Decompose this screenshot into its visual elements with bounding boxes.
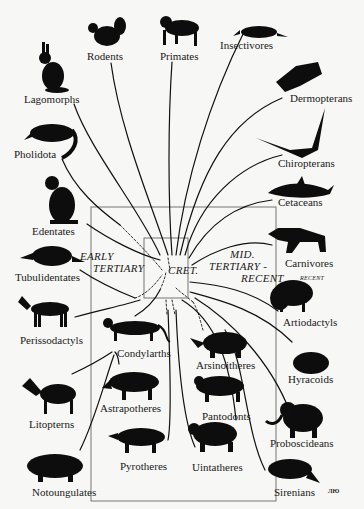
squirrel-silhouette-icon	[88, 17, 126, 46]
label-tubulidentates: Tubulidentates	[15, 271, 80, 283]
branch-pyrotheres	[168, 310, 170, 440]
label-perissodactyls: Perissodactyls	[20, 334, 83, 346]
branch-dermopterans	[180, 98, 282, 255]
branch-center-dashed	[176, 288, 193, 302]
label-condylarths: Condylarths	[117, 347, 171, 359]
era-mid-line1: MID.	[230, 248, 255, 260]
branch-insectivores	[176, 32, 244, 255]
silhouettes	[18, 16, 334, 483]
label-notoungulates: Notoungulates	[32, 486, 96, 498]
hyrax-silhouette-icon	[293, 352, 329, 374]
astrapothere-silhouette-icon	[102, 372, 159, 400]
bat-silhouette-icon	[256, 108, 325, 158]
label-rodents: Rodents	[87, 50, 123, 62]
diagram-canvas	[0, 0, 364, 509]
label-litopterns: Litopterns	[29, 418, 74, 430]
uintathere-silhouette-icon	[188, 422, 237, 452]
label-chiropterans: Chiropterans	[278, 157, 335, 169]
label-lagomorphs: Lagomorphs	[24, 93, 80, 105]
label-artiodactyls: Artiodactyls	[283, 316, 337, 328]
horse-silhouette-icon	[18, 296, 69, 327]
era-early-line1: EARLY	[80, 250, 114, 262]
bison-silhouette-icon	[270, 280, 313, 312]
branch-uintatheres-dashed	[172, 300, 175, 315]
branch-chiropterans	[185, 155, 282, 255]
monkey-silhouette-icon	[160, 16, 199, 46]
label-hyracoids: Hyracoids	[288, 373, 333, 385]
condylarth-silhouette-icon	[103, 318, 170, 342]
branch-primates	[169, 62, 172, 255]
label-insectivores: Insectivores	[220, 39, 273, 51]
label-proboscideans: Proboscideans	[270, 437, 334, 449]
branch-tubulidentates	[80, 270, 135, 298]
label-carnivores: Carnivores	[285, 257, 333, 269]
branch-lagomorphs	[74, 104, 160, 255]
ground-sloth-silhouette-icon	[45, 176, 78, 224]
carnivores-recent-note: RECENT	[300, 272, 324, 284]
phylogeny-diagram: Rodents Primates Insectivores Lagomorphs…	[0, 0, 364, 509]
branch-perissodactyls	[75, 300, 140, 317]
branch-condylarths-up	[135, 290, 160, 316]
label-arsinoitheres: Arsinoitheres	[196, 359, 255, 371]
pantodont-silhouette-icon	[194, 376, 244, 402]
dolphin-silhouette-icon	[268, 176, 334, 198]
era-cretaceous: CRET.	[168, 264, 198, 276]
branch-pyrotheres-dashed	[166, 300, 167, 315]
artist-signature: ЛЮ	[328, 485, 339, 497]
label-pholidota: Pholidota	[14, 148, 56, 160]
branch-rodents	[111, 63, 168, 255]
label-dermopterans: Dermopterans	[290, 92, 352, 104]
era-early-line2: TERTIARY	[93, 262, 144, 274]
era-mid-line2: TERTIARY -	[209, 260, 267, 272]
hyena-silhouette-icon	[268, 228, 326, 253]
era-mid-line3: RECENT	[241, 272, 284, 284]
label-sirenians: Sirenians	[274, 486, 315, 498]
label-uintatheres: Uintatheres	[192, 461, 243, 473]
pyrothere-silhouette-icon	[108, 428, 165, 453]
label-cetaceans: Cetaceans	[278, 196, 323, 208]
label-pyrotheres: Pyrotheres	[120, 460, 167, 472]
branch-artiodactyls	[190, 282, 278, 311]
aardvark-silhouette-icon	[20, 246, 85, 266]
arsinoithere-silhouette-icon	[190, 332, 247, 358]
branch-condylarths-dashed	[160, 272, 166, 290]
label-edentates: Edentates	[32, 225, 75, 237]
label-pantodonts: Pantodonts	[202, 410, 251, 422]
toxodon-silhouette-icon	[27, 454, 83, 482]
litoptern-silhouette-icon	[22, 378, 76, 414]
label-astrapotheres: Astrapotheres	[100, 402, 161, 414]
rabbit-silhouette-icon	[39, 42, 69, 93]
branch-litopterns	[72, 352, 112, 374]
colugo-silhouette-icon	[276, 62, 322, 92]
label-primates: Primates	[160, 50, 199, 62]
elephant-silhouette-icon	[266, 402, 323, 438]
